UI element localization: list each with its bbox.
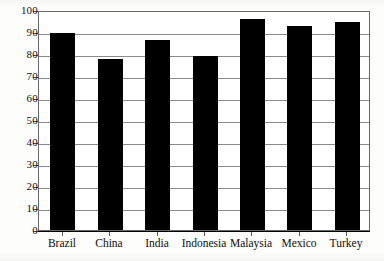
bar (240, 19, 265, 230)
bar-chart: 1009080706050403020100 BrazilChinaIndiaI… (0, 0, 384, 261)
bar (145, 40, 170, 230)
y-axis-tick-label: 70 (27, 71, 38, 82)
plot-area (38, 11, 370, 231)
x-axis-tick (251, 232, 252, 236)
x-axis-tick-label: Malaysia (230, 237, 272, 250)
x-axis-tick-label: Brazil (48, 237, 76, 250)
y-axis-tick-label: 40 (27, 137, 38, 148)
y-axis-tick-label: 100 (21, 5, 38, 16)
y-axis-tick-label: 30 (27, 159, 38, 170)
bar (335, 22, 360, 230)
y-axis-tick-label: 10 (27, 203, 38, 214)
x-axis-tick-label: India (145, 237, 169, 250)
x-axis-tick-label: China (95, 237, 122, 250)
bar (193, 56, 218, 230)
x-axis-tick-label: Mexico (281, 237, 316, 250)
x-axis-tick (62, 232, 63, 236)
y-axis-tick-label: 60 (27, 93, 38, 104)
x-axis-tick-label: Indonesia (182, 237, 227, 250)
bar (98, 59, 123, 230)
x-axis-tick (204, 232, 205, 236)
y-axis-tick-label: 90 (27, 27, 38, 38)
y-axis-tick-label: 80 (27, 49, 38, 60)
x-axis-tick-label: Turkey (330, 237, 363, 250)
x-axis-tick (109, 232, 110, 236)
bar (287, 26, 312, 230)
x-axis-tick (299, 232, 300, 236)
bar (50, 33, 75, 230)
y-axis-tick-label: 50 (27, 115, 38, 126)
x-axis-tick (157, 232, 158, 236)
y-axis-tick-label: 20 (27, 181, 38, 192)
gridline (39, 34, 369, 35)
x-axis-tick (346, 232, 347, 236)
